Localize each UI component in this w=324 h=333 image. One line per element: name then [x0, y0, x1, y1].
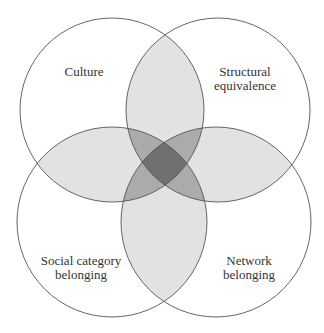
label-social-2: belonging: [55, 267, 107, 282]
label-network-2: belonging: [223, 267, 275, 282]
label-social-1: Social category: [41, 253, 122, 268]
label-structural-2: equivalence: [214, 78, 276, 93]
venn-diagram: Culture Structural equivalence Social ca…: [0, 0, 324, 333]
label-network-1: Network: [226, 253, 272, 268]
label-culture: Culture: [65, 64, 104, 79]
label-structural-1: Structural: [219, 64, 271, 79]
